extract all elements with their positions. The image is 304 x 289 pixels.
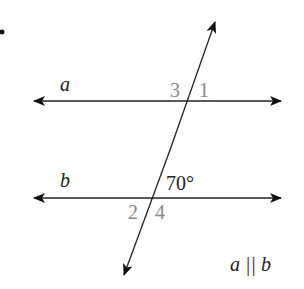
diagram-lines bbox=[0, 0, 304, 289]
bullet-dot bbox=[0, 30, 5, 35]
line-b-label: b bbox=[60, 170, 70, 190]
angle-2-label: 2 bbox=[128, 202, 138, 222]
angle-4-label: 4 bbox=[155, 202, 165, 222]
parallel-condition: a || b bbox=[230, 254, 271, 274]
diagram-canvas: a b 3 1 70° 2 4 a || b bbox=[0, 0, 304, 289]
angle-3-label: 3 bbox=[170, 80, 180, 100]
angle-70-label: 70° bbox=[166, 173, 194, 193]
line-a-label: a bbox=[60, 74, 70, 94]
angle-1-label: 1 bbox=[199, 80, 209, 100]
